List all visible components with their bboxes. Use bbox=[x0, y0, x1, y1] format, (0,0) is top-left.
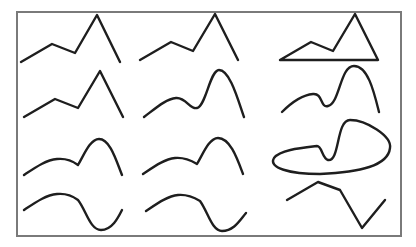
polyline-sharp bbox=[24, 71, 123, 117]
smooth-kink-curve bbox=[143, 138, 243, 174]
row-4 bbox=[24, 182, 385, 231]
smooth-curve bbox=[144, 70, 244, 117]
row-3 bbox=[24, 120, 390, 175]
row-1 bbox=[21, 14, 378, 62]
polyline-sharp bbox=[21, 15, 120, 62]
polyline-sharp bbox=[140, 14, 238, 60]
smooth-curve bbox=[282, 66, 379, 112]
smooth-kink-curve bbox=[24, 139, 122, 175]
sketch-grid-figure bbox=[0, 0, 416, 247]
curve-group bbox=[21, 14, 390, 231]
row-2 bbox=[24, 66, 379, 117]
polyline-sharp bbox=[287, 182, 385, 228]
wave-curve bbox=[24, 194, 122, 230]
wave-curve bbox=[146, 195, 246, 231]
closed-blob bbox=[273, 120, 390, 174]
closed-polygon bbox=[280, 14, 378, 60]
